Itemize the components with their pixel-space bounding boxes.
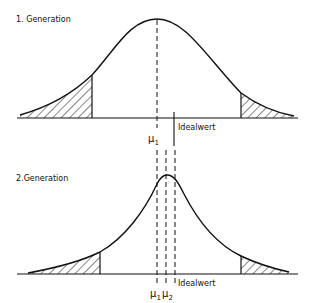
panel-title: 1. Generation: [16, 15, 71, 24]
panel-generation-1: 1. Generation μ1 Idealwert: [16, 15, 298, 147]
peaked-curve: [28, 175, 289, 273]
generation-distribution-diagram: 1. Generation μ1 Idealwert 2.Generation …: [0, 0, 315, 303]
ideal-value-label: Idealwert: [178, 123, 215, 132]
panel-generation-2: 2.Generation μ1 μ2 Idealwert: [16, 150, 298, 302]
mu2-label: μ2: [162, 288, 173, 302]
ideal-value-label: Idealwert: [178, 279, 215, 288]
mu1-label: μ1: [150, 288, 161, 302]
panel-title: 2.Generation: [16, 174, 68, 183]
mu1-label: μ1: [148, 133, 159, 147]
